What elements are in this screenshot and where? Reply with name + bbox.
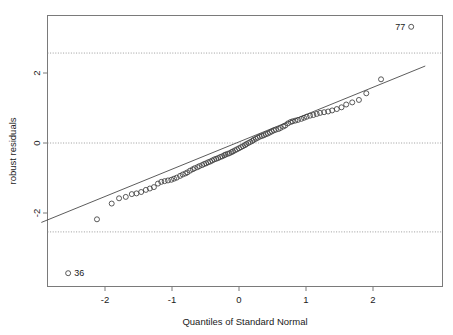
qq-reference-line: [41, 66, 425, 222]
y-tick-label: -2: [31, 209, 42, 217]
data-point: [311, 113, 316, 118]
outlier-label-36: 36: [74, 268, 84, 278]
data-point: [139, 190, 144, 195]
data-point: [129, 192, 134, 197]
data-point: [314, 111, 319, 116]
x-tick-label: 2: [370, 294, 375, 305]
data-point: [117, 196, 122, 201]
y-axis-title: robust residuals: [7, 117, 18, 184]
data-point: [123, 194, 128, 199]
data-point: [409, 24, 414, 29]
data-points-group: [66, 24, 414, 275]
plot-frame: [48, 16, 443, 287]
data-point: [66, 271, 71, 276]
data-point: [379, 77, 384, 82]
data-point: [364, 91, 369, 96]
data-point: [134, 191, 139, 196]
x-tick-label: -2: [101, 294, 109, 305]
x-axis-group: -2-1012: [101, 287, 376, 305]
data-point: [94, 217, 99, 222]
x-axis-title: Quantiles of Standard Normal: [182, 316, 307, 327]
y-axis-group: 20-2: [31, 70, 47, 217]
data-point: [356, 97, 361, 102]
data-point: [165, 178, 170, 183]
data-point: [344, 102, 349, 107]
x-tick-label: 0: [236, 294, 241, 305]
y-tick-label: 0: [31, 140, 42, 145]
x-tick-label: -1: [168, 294, 176, 305]
data-point: [339, 105, 344, 110]
qq-plot-figure: -2-1012 20-2 7736 Quantiles of Standard …: [0, 0, 453, 335]
data-point: [109, 201, 114, 206]
y-tick-label: 2: [31, 70, 42, 75]
data-point: [350, 100, 355, 105]
x-tick-label: 1: [303, 294, 308, 305]
outlier-label-77: 77: [395, 22, 405, 32]
fit-line-group: [41, 66, 425, 222]
qq-plot-canvas: -2-1012 20-2 7736 Quantiles of Standard …: [0, 0, 453, 335]
data-point: [334, 107, 339, 112]
data-point: [308, 113, 313, 118]
data-point: [162, 179, 167, 184]
